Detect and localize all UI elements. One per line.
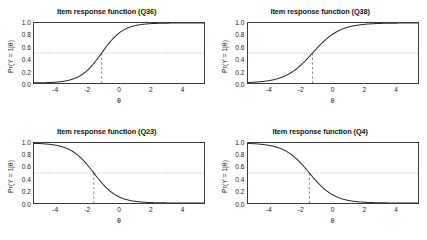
x-tick-label: 4 bbox=[394, 86, 398, 93]
x-tick-label: 2 bbox=[149, 86, 153, 93]
y-tick-label: 0.0 bbox=[235, 200, 244, 207]
x-axis-ticks: -4-2024 bbox=[33, 206, 205, 216]
x-tick-label: -2 bbox=[298, 86, 304, 93]
panel-title: Item response function (Q36) bbox=[0, 7, 214, 16]
x-tick-label: -2 bbox=[298, 206, 304, 213]
x-tick-label: -4 bbox=[266, 206, 272, 213]
x-tick-label: -4 bbox=[266, 86, 272, 93]
x-axis-label: θ bbox=[247, 97, 419, 104]
x-axis-ticks: -4-2024 bbox=[247, 86, 419, 96]
x-axis-ticks: -4-2024 bbox=[247, 206, 419, 216]
y-tick-label: 0.0 bbox=[22, 200, 31, 207]
irf-panel-q38: Item response function (Q38) Pr(Y = 1|θ)… bbox=[214, 0, 427, 120]
panel-title: Item response function (Q4) bbox=[214, 127, 427, 136]
x-axis-label: θ bbox=[247, 217, 419, 224]
x-tick-label: 0 bbox=[331, 86, 335, 93]
x-tick-label: 4 bbox=[181, 86, 185, 93]
y-tick-label: 0.6 bbox=[235, 43, 244, 50]
y-tick-label: 0.2 bbox=[22, 68, 31, 75]
x-tick-label: -2 bbox=[84, 206, 90, 213]
y-tick-label: 1.0 bbox=[235, 19, 244, 26]
y-tick-label: 0.8 bbox=[22, 31, 31, 38]
y-axis-ticks: 1.00.80.60.40.20.0 bbox=[227, 142, 245, 204]
x-tick-label: 4 bbox=[394, 206, 398, 213]
y-tick-label: 0.2 bbox=[235, 68, 244, 75]
y-axis-ticks: 1.00.80.60.40.20.0 bbox=[13, 22, 31, 84]
y-tick-label: 1.0 bbox=[22, 138, 31, 145]
x-axis-label: θ bbox=[33, 97, 205, 104]
y-tick-label: 0.6 bbox=[22, 43, 31, 50]
x-tick-label: -4 bbox=[52, 86, 58, 93]
panel-title: Item response function (Q23) bbox=[0, 127, 214, 136]
plot-canvas bbox=[248, 143, 418, 203]
y-tick-label: 0.2 bbox=[235, 188, 244, 195]
y-tick-label: 0.4 bbox=[22, 56, 31, 63]
x-tick-label: 4 bbox=[181, 206, 185, 213]
y-tick-label: 0.8 bbox=[235, 150, 244, 157]
y-tick-label: 0.6 bbox=[22, 163, 31, 170]
plot-frame bbox=[33, 142, 205, 204]
irf-panel-grid: Item response function (Q36) Pr(Y = 1|θ)… bbox=[0, 0, 427, 239]
y-tick-label: 0.6 bbox=[235, 163, 244, 170]
x-tick-label: -4 bbox=[52, 206, 58, 213]
x-tick-label: 2 bbox=[363, 206, 367, 213]
y-tick-label: 0.2 bbox=[22, 188, 31, 195]
x-tick-label: 0 bbox=[331, 206, 335, 213]
y-tick-label: 0.4 bbox=[22, 175, 31, 182]
plot-frame bbox=[247, 142, 419, 204]
irf-panel-q23: Item response function (Q23) Pr(Y = 1|θ)… bbox=[0, 120, 214, 240]
x-tick-label: -2 bbox=[84, 86, 90, 93]
y-tick-label: 0.4 bbox=[235, 175, 244, 182]
y-tick-label: 0.8 bbox=[22, 150, 31, 157]
y-tick-label: 1.0 bbox=[235, 138, 244, 145]
x-axis-ticks: -4-2024 bbox=[33, 86, 205, 96]
y-tick-label: 0.4 bbox=[235, 56, 244, 63]
x-axis-label: θ bbox=[33, 217, 205, 224]
y-tick-label: 1.0 bbox=[22, 19, 31, 26]
y-tick-label: 0.0 bbox=[22, 81, 31, 88]
y-tick-label: 0.8 bbox=[235, 31, 244, 38]
irf-panel-q36: Item response function (Q36) Pr(Y = 1|θ)… bbox=[0, 0, 214, 120]
x-tick-label: 0 bbox=[117, 206, 121, 213]
plot-canvas bbox=[34, 143, 204, 203]
x-tick-label: 2 bbox=[363, 86, 367, 93]
panel-title: Item response function (Q38) bbox=[214, 7, 427, 16]
plot-frame bbox=[247, 22, 419, 84]
plot-canvas bbox=[34, 23, 204, 83]
plot-canvas bbox=[248, 23, 418, 83]
plot-frame bbox=[33, 22, 205, 84]
y-axis-ticks: 1.00.80.60.40.20.0 bbox=[13, 142, 31, 204]
irf-panel-q4: Item response function (Q4) Pr(Y = 1|θ) … bbox=[214, 120, 427, 240]
y-tick-label: 0.0 bbox=[235, 81, 244, 88]
y-axis-ticks: 1.00.80.60.40.20.0 bbox=[227, 22, 245, 84]
x-tick-label: 2 bbox=[149, 206, 153, 213]
x-tick-label: 0 bbox=[117, 86, 121, 93]
